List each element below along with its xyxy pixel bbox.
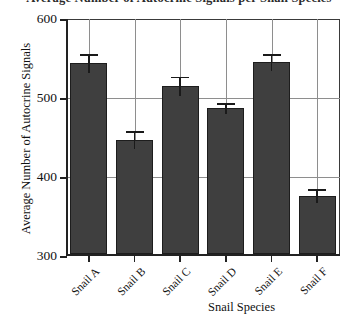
plot-top-border [66,19,340,20]
x-axis-tick [179,255,180,262]
x-axis-category-label: Snail B [102,265,147,310]
x-axis-tick [316,255,317,262]
y-axis-tick-label: 500 [37,90,57,106]
y-axis-tick [60,177,67,179]
chart-title: Average Number of Autocrine Signals per … [0,0,358,6]
plot-area: 300400500600 [66,19,340,256]
x-axis-title: Snail Species [208,300,275,315]
error-bar-stem [88,54,90,73]
x-axis-tick [88,255,89,262]
bar [162,86,199,254]
error-bar-stem [316,189,318,203]
x-axis-tick [271,255,272,262]
error-bar-cap [217,103,235,105]
error-bar-cap [126,131,144,133]
error-bar-stem [179,77,181,96]
error-bar-stem [271,54,273,71]
y-axis-tick [60,256,67,258]
bar [116,140,153,255]
bar [207,108,244,254]
y-axis-tick-label: 300 [37,248,57,264]
y-axis-tick [60,98,67,100]
y-axis-tick-label: 400 [37,169,57,185]
x-axis-category-label: Snail A [56,265,101,310]
y-axis-tick [60,19,67,21]
x-axis-tick [134,255,135,262]
bar [70,63,107,254]
x-axis-category-label: Snail C [147,265,192,310]
bar-chart: Average Number of Autocrine Signals per … [0,0,358,325]
bar [253,62,290,254]
error-bar-stem [134,131,136,148]
error-bar-cap [308,189,326,191]
error-bar-cap [171,77,189,79]
x-axis-category-label: Snail F [284,265,329,310]
error-bar-cap [263,54,281,56]
bar [299,196,336,254]
error-bar-cap [80,54,98,56]
plot-right-border [339,19,340,256]
y-axis-line [66,19,68,256]
x-axis-tick [225,255,226,262]
x-axis-line [66,254,340,256]
y-axis-title: Average Number of Autocrine Signals [19,14,34,264]
y-axis-tick-label: 600 [37,11,57,27]
